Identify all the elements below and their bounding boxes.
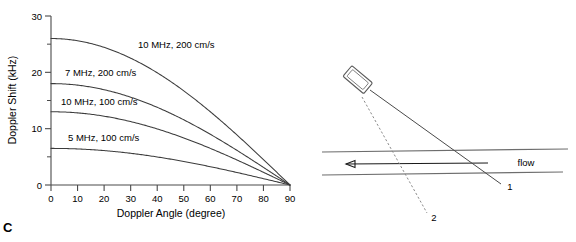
doppler-angle-diagram: flow 1 2 [300, 0, 576, 242]
x-tick-label-70: 70 [232, 193, 243, 204]
x-tick-label-20: 20 [99, 193, 110, 204]
x-tick-label-60: 60 [205, 193, 216, 204]
x-tick-label-90: 90 [285, 193, 296, 204]
x-tick-label-80: 80 [258, 193, 269, 204]
y-tick-label-0: 0 [37, 180, 42, 191]
curve-label-10mhz-100: 10 MHz, 100 cm/s [61, 96, 138, 107]
curve-series-3 [51, 148, 290, 185]
curve-series-0 [51, 39, 290, 185]
x-tick-label-50: 50 [178, 193, 189, 204]
x-tick-label-10: 10 [72, 193, 83, 204]
x-axis-title: Doppler Angle (degree) [117, 207, 226, 219]
curve-label-10mhz-200: 10 MHz, 200 cm/s [138, 39, 215, 50]
y-axis-title: Doppler Shift (kHz) [6, 56, 18, 145]
vessel-wall-top [322, 149, 568, 152]
flow-label: flow [518, 157, 535, 168]
vessel-wall-bottom [322, 172, 563, 175]
x-tick-label-0: 0 [48, 193, 53, 204]
curve-label-5mhz-100: 5 MHz, 100 cm/s [68, 132, 140, 143]
beam-2-label: 2 [431, 212, 436, 223]
beam-line-2 [362, 97, 427, 213]
x-axis-ticks [51, 185, 290, 191]
flow-arrow [346, 161, 488, 168]
panel-d-diagram: flow 1 2 D [300, 0, 576, 242]
panel-letter-c: C [3, 221, 12, 234]
curve-group [51, 39, 290, 185]
y-tick-label-10: 10 [31, 123, 42, 134]
x-tick-label-40: 40 [152, 193, 163, 204]
x-tick-label-30: 30 [125, 193, 136, 204]
beam-1-label: 1 [507, 181, 512, 192]
panel-c-chart: 0 10 20 30 0 10 20 30 40 50 [0, 0, 300, 242]
curve-series-2 [51, 112, 290, 185]
beam-line-1 [370, 90, 501, 184]
y-tick-label-20: 20 [31, 67, 42, 78]
ultrasound-transducer-icon [343, 66, 373, 94]
doppler-shift-chart: 0 10 20 30 0 10 20 30 40 50 [0, 0, 300, 242]
curve-label-7mhz-200: 7 MHz, 200 cm/s [65, 67, 137, 78]
y-axis-minor-ticks [47, 44, 51, 157]
y-tick-label-30: 30 [31, 11, 42, 22]
figure-root: 0 10 20 30 0 10 20 30 40 50 [0, 0, 576, 242]
